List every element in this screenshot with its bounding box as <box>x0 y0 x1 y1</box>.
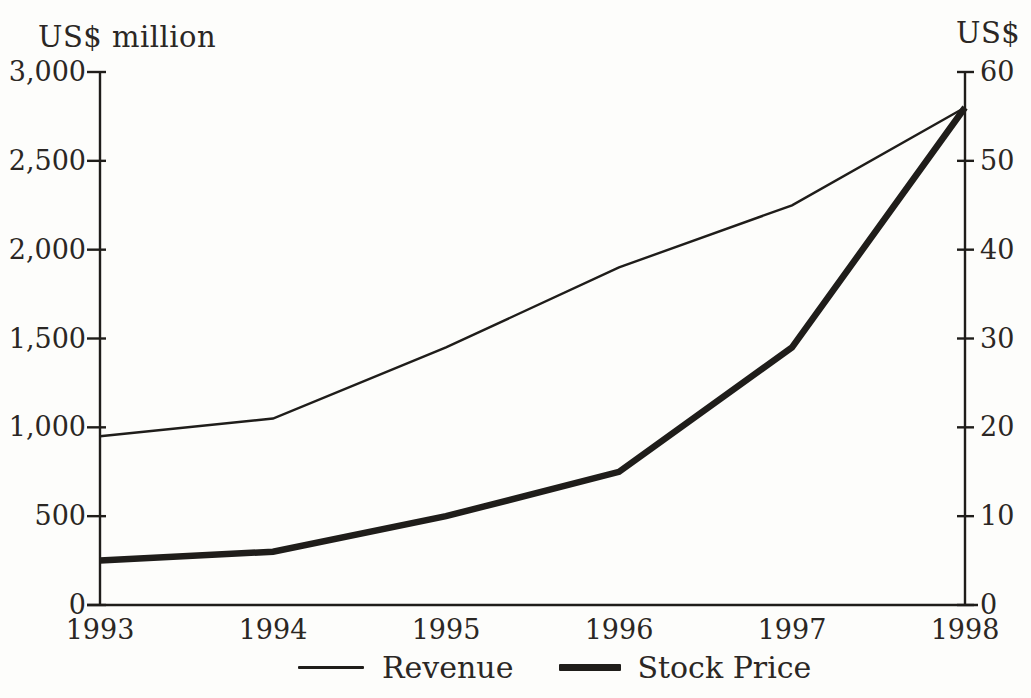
left-axis-tick-label: 2,500 <box>0 146 86 176</box>
left-axis-tick-label: 3,000 <box>0 57 86 87</box>
left-axis-title: US$ million <box>38 20 216 54</box>
x-axis-year-label: 1997 <box>732 614 852 645</box>
x-axis-year-label: 1995 <box>386 614 506 645</box>
right-axis-title: US$ <box>956 16 1020 50</box>
x-axis-year-label: 1994 <box>213 614 333 645</box>
chart-canvas <box>0 0 1031 698</box>
x-axis-year-label: 1993 <box>40 614 160 645</box>
x-axis-year-label: 1998 <box>905 614 1025 645</box>
left-axis-tick-label: 1,000 <box>0 412 86 442</box>
right-axis-tick-label: 20 <box>980 412 1014 442</box>
revenue-legend-label: Revenue <box>382 650 513 685</box>
left-axis-tick-label: 1,500 <box>0 324 86 354</box>
revenue-legend-line-icon <box>298 666 364 669</box>
chart-page: US$ million US$ Revenue Stock Price 3,00… <box>0 0 1031 698</box>
right-axis-tick-label: 50 <box>980 146 1014 176</box>
stock-price-line <box>100 108 965 561</box>
stock-price-legend-line-icon <box>559 664 621 671</box>
right-axis-tick-label: 30 <box>980 324 1014 354</box>
x-axis-year-label: 1996 <box>559 614 679 645</box>
right-axis-tick-label: 10 <box>980 501 1014 531</box>
chart-legend: Revenue Stock Price <box>298 650 811 685</box>
left-axis-tick-label: 2,000 <box>0 235 86 265</box>
left-axis-tick-label: 500 <box>0 501 86 531</box>
stock-price-legend-label: Stock Price <box>637 650 811 685</box>
right-axis-tick-label: 40 <box>980 235 1014 265</box>
revenue-line <box>100 108 965 437</box>
right-axis-tick-label: 60 <box>980 57 1014 87</box>
